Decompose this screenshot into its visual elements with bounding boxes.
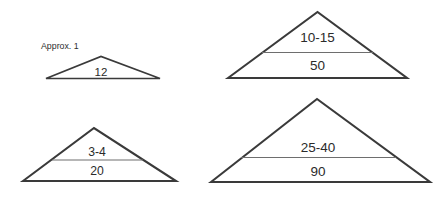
triangle-bottom-right-upper-label: 25-40 (301, 140, 336, 155)
triangle-bottom-right-lower-label: 90 (310, 164, 325, 179)
triangle-diagram-svg: 12 Approx. 1 10-15 50 3-4 20 25-40 90 (0, 0, 447, 197)
triangle-bottom-right-group: 25-40 90 (211, 99, 430, 182)
triangle-bottom-left-group: 3-4 20 (23, 128, 176, 181)
triangle-top-right-lower-label: 50 (310, 58, 325, 73)
triangle-top-left-annotation: Approx. 1 (41, 41, 79, 51)
triangle-bottom-left-lower-label: 20 (90, 164, 104, 178)
diagram-canvas: 12 Approx. 1 10-15 50 3-4 20 25-40 90 (0, 0, 447, 197)
triangle-top-left-group: 12 Approx. 1 (41, 41, 160, 79)
triangle-top-right-group: 10-15 50 (228, 12, 407, 78)
triangle-bottom-left-upper-label: 3-4 (88, 145, 106, 159)
triangle-top-right-upper-label: 10-15 (300, 30, 335, 45)
triangle-top-left-lower-label: 12 (95, 66, 108, 78)
